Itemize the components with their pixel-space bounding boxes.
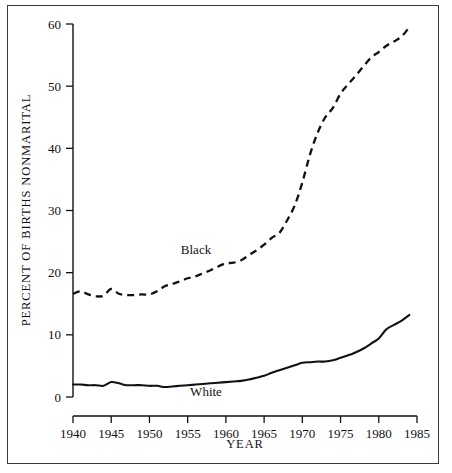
series-label-white: White <box>190 384 222 399</box>
series-line-black <box>73 27 409 296</box>
series-line-white <box>73 315 409 387</box>
data-series <box>73 27 409 387</box>
x-tick-label: 1940 <box>60 426 86 441</box>
line-chart: 0102030405060 19401945195019551960196519… <box>0 0 452 473</box>
figure-container: 0102030405060 19401945195019551960196519… <box>0 0 452 473</box>
x-tick-label: 1980 <box>366 426 392 441</box>
x-axis-title: YEAR <box>226 437 264 451</box>
y-tick-label: 40 <box>48 141 61 156</box>
y-tick-label: 0 <box>55 390 62 405</box>
series-label-black: Black <box>181 242 212 257</box>
y-axis-title: PERCENT OF BIRTHS NONMARITAL <box>19 94 33 327</box>
x-tick-label: 1975 <box>328 426 354 441</box>
y-axis-ticks: 0102030405060 <box>48 17 73 405</box>
y-tick-label: 30 <box>48 203 61 218</box>
x-tick-label: 1985 <box>404 426 430 441</box>
y-tick-label: 50 <box>48 79 61 94</box>
x-tick-label: 1945 <box>98 426 124 441</box>
x-tick-label: 1950 <box>136 426 162 441</box>
axis-lines <box>73 24 417 416</box>
y-tick-label: 20 <box>48 265 61 280</box>
x-tick-label: 1955 <box>175 426 201 441</box>
y-tick-label: 10 <box>48 327 61 342</box>
y-tick-label: 60 <box>48 17 61 32</box>
x-tick-label: 1970 <box>289 426 315 441</box>
